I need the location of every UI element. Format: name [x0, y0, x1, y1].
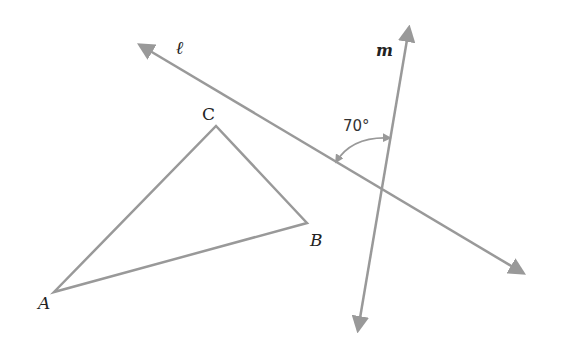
- vertex-a-label: A: [36, 293, 50, 313]
- angle-arc: [336, 138, 390, 162]
- vertex-c-label: C: [202, 104, 215, 124]
- angle-label: 70°: [343, 117, 370, 135]
- line-l: [140, 45, 523, 273]
- triangle-abc: [54, 126, 307, 292]
- line-m-label: m: [376, 41, 393, 60]
- line-l-label: ℓ: [176, 37, 184, 58]
- vertex-b-label: B: [309, 230, 323, 250]
- geometry-diagram: ℓ m C B A 70°: [0, 0, 561, 345]
